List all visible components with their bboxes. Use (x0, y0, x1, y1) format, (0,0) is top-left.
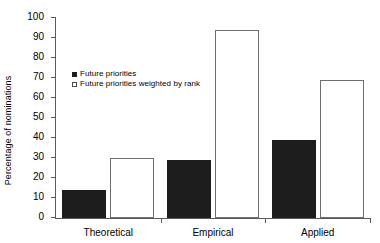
y-axis-tick: 0 (51, 217, 56, 218)
y-axis-tick-label: 50 (33, 110, 44, 123)
y-axis-tick-label: 40 (33, 130, 44, 143)
plot-area: 0102030405060708090100 (56, 18, 370, 218)
legend-swatch-icon (72, 72, 77, 77)
y-axis-tick: 20 (51, 177, 56, 178)
x-axis-separator (370, 218, 371, 223)
y-axis-tick: 90 (51, 37, 56, 38)
bar (167, 160, 211, 218)
y-axis-tick-label: 60 (33, 90, 44, 103)
bar-chart-figure: Percentage of nominations 01020304050607… (0, 0, 380, 243)
y-axis-tick-label: 80 (33, 50, 44, 63)
bar-group (62, 18, 154, 218)
x-axis-line (55, 218, 371, 219)
y-axis-tick: 60 (51, 97, 56, 98)
y-axis-title-label: Percentage of nominations (3, 76, 13, 186)
y-axis-tick: 30 (51, 157, 56, 158)
legend-item: Future priorities (72, 69, 200, 79)
y-axis-title: Percentage of nominations (0, 0, 16, 243)
y-axis-tick-label: 20 (33, 170, 44, 183)
bar-group (272, 18, 364, 218)
x-axis-separator (265, 218, 266, 223)
y-axis-tick: 10 (51, 197, 56, 198)
bar (62, 190, 106, 218)
y-axis-tick-label: 100 (27, 10, 44, 23)
legend-item-label: Future priorities weighted by rank (80, 79, 200, 89)
y-axis-tick: 100 (51, 17, 56, 18)
y-axis-tick: 50 (51, 117, 56, 118)
x-axis-category-label: Applied (265, 227, 370, 239)
bar (110, 158, 154, 218)
legend-item-label: Future priorities (80, 69, 136, 79)
bar-group (167, 18, 259, 218)
y-axis-tick: 40 (51, 137, 56, 138)
x-axis-separator (161, 218, 162, 223)
y-axis-tick-label: 30 (33, 150, 44, 163)
y-axis-tick-label: 0 (38, 210, 44, 223)
legend-swatch-icon (72, 82, 77, 87)
chart-legend: Future prioritiesFuture priorities weigh… (72, 69, 200, 89)
x-axis-category-label: Theoretical (56, 227, 161, 239)
y-axis-tick-label: 70 (33, 70, 44, 83)
bar (320, 80, 364, 218)
y-axis-tick-label: 90 (33, 30, 44, 43)
legend-item: Future priorities weighted by rank (72, 79, 200, 89)
y-axis-tick: 80 (51, 57, 56, 58)
bar (272, 140, 316, 218)
y-axis-tick-label: 10 (33, 190, 44, 203)
x-axis-category-label: Empirical (161, 227, 266, 239)
bar (215, 30, 259, 218)
y-axis-tick: 70 (51, 77, 56, 78)
